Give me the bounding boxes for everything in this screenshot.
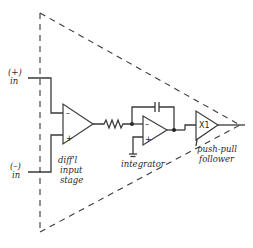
ground-icon — [129, 137, 143, 157]
diff-minus-pin: – — [66, 109, 70, 118]
op-amp-block-diagram: – + – + X1 (+) in (–) in — [0, 0, 253, 248]
svg-text:diff'l: diff'l — [58, 155, 78, 165]
svg-text:stage: stage — [60, 175, 83, 185]
svg-text:push-pull: push-pull — [197, 144, 237, 154]
plus-input-label-bottom: in — [10, 76, 18, 86]
junction-dot — [172, 128, 176, 132]
follower-gain-label: X1 — [199, 121, 210, 130]
diff-stage-label: diff'l input stage — [58, 155, 83, 185]
svg-text:input: input — [60, 165, 83, 175]
minus-input-label-bottom: in — [12, 170, 20, 180]
resistor-icon — [93, 120, 132, 128]
capacitor-icon — [155, 102, 159, 112]
diff-input-amp: – + — [63, 104, 93, 144]
push-pull-follower-amp: X1 — [196, 111, 218, 140]
integrator-amp: – + — [132, 116, 167, 145]
integrator-plus-pin: + — [145, 135, 152, 144]
integrator-label: integrator — [121, 159, 166, 169]
integrator-minus-pin: – — [145, 120, 149, 129]
svg-text:follower: follower — [198, 154, 235, 164]
diff-plus-pin: + — [66, 134, 73, 143]
input-labels: (+) in (–) in — [8, 67, 22, 180]
follower-label: push-pull follower — [197, 144, 237, 164]
